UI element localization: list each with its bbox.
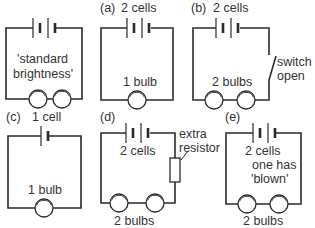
bulb-icon <box>128 91 146 109</box>
note-line: one has <box>252 158 296 172</box>
bulbs-label: 1 bulb <box>28 183 62 197</box>
battery-two-cells-icon <box>216 18 238 38</box>
wire <box>101 28 173 100</box>
battery-two-cells-icon <box>253 123 275 143</box>
switch-label-line: switch <box>277 55 312 69</box>
resistor-label-line: resistor <box>179 141 220 155</box>
cells-label: 1 cell <box>32 110 61 124</box>
bulb-icon <box>205 91 223 109</box>
bulb-icon <box>110 194 128 212</box>
wire <box>193 28 269 100</box>
battery-one-cell-icon <box>41 126 48 146</box>
battery-two-cells-icon <box>33 18 55 38</box>
circuit-d: (d) 2 cells 2 bulbs extra resistor <box>100 110 220 228</box>
cells-label: 2 cells <box>213 1 248 15</box>
circuit-diagram: 'standard brightness' (a) 2 cells 1 bulb <box>0 0 315 228</box>
wire <box>8 136 81 208</box>
bulb-icon <box>53 90 71 108</box>
bulbs-label: 2 bulbs <box>212 75 252 89</box>
bulbs-label: 1 bulb <box>123 75 157 89</box>
cells-label: 2 cells <box>121 1 156 15</box>
open-switch-icon <box>269 56 276 80</box>
circuit-e: (e) 2 cells one has 'blown' 2 bulbs <box>225 110 301 228</box>
cells-label: 2 cells <box>245 144 280 158</box>
circuit-b: (b) 2 cells 2 bulbs switch open <box>191 1 312 109</box>
bulbs-label: 2 bulbs <box>114 214 154 228</box>
circuit-standard: 'standard brightness' <box>6 18 82 108</box>
circuit-a: (a) 2 cells 1 bulb <box>100 1 173 109</box>
battery-two-cells-icon <box>126 123 148 143</box>
circuit-tag: (c) <box>6 110 21 124</box>
circuit-tag: (e) <box>225 110 240 124</box>
note-line: brightness' <box>13 67 73 81</box>
bulb-icon <box>238 195 256 213</box>
battery-two-cells-icon <box>127 18 149 38</box>
circuit-tag: (a) <box>100 1 115 15</box>
bulb-icon <box>270 195 288 213</box>
resistor-icon <box>170 158 180 182</box>
switch-label-line: open <box>277 69 305 83</box>
circuit-c: (c) 1 cell 1 bulb <box>6 110 81 217</box>
bulb-icon <box>146 194 164 212</box>
bulb-icon <box>35 199 53 217</box>
note-line: 'blown' <box>251 172 288 186</box>
note-line: 'standard <box>17 52 68 66</box>
bulb-icon <box>237 91 255 109</box>
circuit-tag: (b) <box>191 1 206 15</box>
bulbs-label: 2 bulbs <box>243 214 283 228</box>
resistor-label-line: extra <box>179 127 207 141</box>
circuit-tag: (d) <box>100 110 115 124</box>
bulb-icon <box>29 90 47 108</box>
cells-label: 2 cells <box>120 144 155 158</box>
